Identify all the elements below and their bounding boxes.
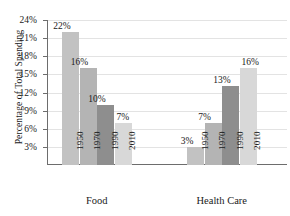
bar-value-label: 7% xyxy=(189,112,221,122)
y-axis-tick-label: 9% xyxy=(24,106,37,116)
x-axis-year-label: 1970 xyxy=(92,131,102,150)
x-axis-year-label: 2010 xyxy=(127,131,137,150)
gridline xyxy=(48,38,287,39)
x-axis-year-label: 1990 xyxy=(110,131,120,150)
y-axis-tick-label: 6% xyxy=(24,124,37,134)
bar-value-label: 22% xyxy=(46,21,78,31)
y-axis-tick: 21% xyxy=(43,38,47,39)
x-axis-year-label: 1950 xyxy=(75,131,85,150)
y-axis-tick: 9% xyxy=(43,111,47,112)
y-axis-tick-label: 15% xyxy=(20,69,37,79)
bar: 16% xyxy=(80,68,97,165)
x-axis-year-label: 1970 xyxy=(217,131,227,150)
bar: 16% xyxy=(240,68,257,165)
bar-value-label: 7% xyxy=(117,112,151,122)
bar-value-label: 16% xyxy=(64,57,96,67)
y-axis-tick: 18% xyxy=(43,56,47,57)
x-axis-year-label: 1990 xyxy=(235,131,245,150)
y-axis-tick-label: 18% xyxy=(20,51,37,61)
y-axis-tick: 15% xyxy=(43,74,47,75)
y-axis-tick-label: 21% xyxy=(20,33,37,43)
group-label: Food xyxy=(47,195,147,206)
group-label: Health Care xyxy=(172,195,272,206)
x-axis-year-label: 1950 xyxy=(200,131,210,150)
y-axis-tick: 3% xyxy=(43,147,47,148)
x-axis-year-label: 2010 xyxy=(252,131,262,150)
bar-chart: Percentage of Total Spending 3%6%9%12%15… xyxy=(0,0,290,216)
y-axis-tick-label: 12% xyxy=(20,88,37,98)
gridline xyxy=(48,20,287,21)
bar: 13% xyxy=(222,86,239,165)
y-axis-tick-label: 24% xyxy=(20,15,37,25)
y-axis-tick: 6% xyxy=(43,129,47,130)
bar-value-label: 13% xyxy=(206,75,238,85)
y-axis-tick: 12% xyxy=(43,93,47,94)
bar-value-label: 3% xyxy=(171,136,203,146)
bar-value-label: 16% xyxy=(242,57,276,67)
y-axis-tick-label: 3% xyxy=(24,142,37,152)
bar-value-label: 10% xyxy=(81,94,113,104)
